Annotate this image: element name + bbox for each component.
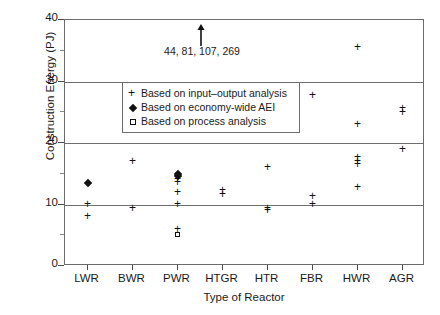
plus-marker-icon	[128, 88, 139, 99]
data-point	[398, 145, 407, 154]
data-point	[398, 108, 407, 117]
legend-item-economy-wide-aei: Based on economy-wide AEI	[128, 100, 294, 114]
legend-label: Based on process analysis	[141, 115, 266, 127]
y-tick-label: 0	[18, 258, 58, 270]
x-tick-label: AGR	[374, 272, 430, 284]
legend-item-process-analysis: Based on process analysis	[128, 114, 294, 128]
data-point	[218, 190, 227, 199]
data-point	[353, 160, 362, 169]
offscale-values-annotation: 44, 81, 107, 269	[142, 45, 262, 57]
data-point	[308, 91, 317, 100]
chart-legend: Based on input–output analysis Based on …	[122, 82, 300, 133]
data-point	[263, 163, 272, 172]
y-tick-label: 10	[18, 197, 58, 209]
square-marker-icon	[128, 116, 139, 127]
legend-label: Based on input–output analysis	[141, 87, 287, 99]
data-point	[353, 183, 362, 192]
gridline	[65, 143, 423, 144]
data-point	[173, 231, 182, 240]
y-axis-label: Construction Energy (PJ)	[44, 0, 56, 216]
x-axis-label: Type of Reactor	[64, 291, 424, 303]
gridline	[65, 205, 423, 206]
data-point	[263, 206, 272, 215]
y-tick-mark	[58, 265, 64, 266]
y-tick-label: 20	[18, 135, 58, 147]
up-arrow-icon	[196, 24, 206, 46]
data-point	[353, 43, 362, 52]
data-point	[353, 120, 362, 129]
y-tick-label: 30	[18, 74, 58, 86]
data-point	[173, 188, 182, 197]
data-point	[83, 200, 92, 209]
y-tick-label: 40	[18, 12, 58, 24]
data-point	[83, 178, 92, 187]
data-point	[83, 212, 92, 221]
data-point	[173, 200, 182, 209]
legend-label: Based on economy-wide AEI	[141, 101, 275, 113]
diamond-marker-icon	[128, 102, 139, 113]
data-point	[128, 157, 137, 166]
data-point	[128, 204, 137, 213]
data-point	[173, 172, 182, 181]
data-point	[308, 200, 317, 209]
chart-figure: Construction Energy (PJ) Type of Reactor…	[0, 0, 440, 315]
legend-item-input-output: Based on input–output analysis	[128, 86, 294, 100]
